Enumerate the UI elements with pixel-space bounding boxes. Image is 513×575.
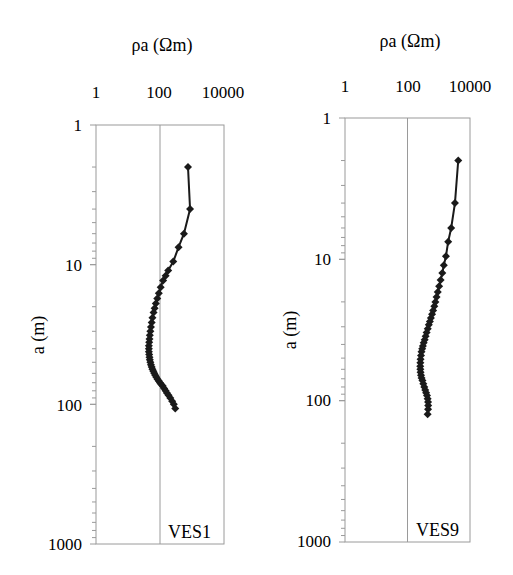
data-point-diamond bbox=[424, 410, 432, 418]
x-tick-label: 10000 bbox=[202, 83, 245, 102]
y-tick-label: 100 bbox=[57, 396, 83, 415]
x-axis-title: ρa (Ωm) bbox=[380, 31, 441, 52]
plot-frame bbox=[339, 118, 470, 542]
x-tick-label: 1 bbox=[92, 83, 101, 102]
data-point-diamond bbox=[175, 243, 183, 251]
y-tick-label: 10 bbox=[65, 256, 82, 275]
data-point-diamond bbox=[157, 283, 165, 291]
chart-svg-ves9: ρa (Ωm) 1 100 10000 1 10 100 1000 a (m) … bbox=[260, 0, 513, 575]
chart-panel-ves9: ρa (Ωm) 1 100 10000 1 10 100 1000 a (m) … bbox=[260, 0, 513, 575]
data-series-ves9 bbox=[416, 157, 462, 419]
x-tick-label: 100 bbox=[395, 77, 421, 96]
y-tick-label: 1000 bbox=[297, 532, 331, 551]
station-label: VES9 bbox=[416, 520, 459, 540]
data-point-diamond bbox=[437, 276, 445, 284]
data-point-diamond bbox=[186, 205, 194, 213]
x-tick-label: 10000 bbox=[449, 77, 492, 96]
y-axis-title: a (m) bbox=[280, 311, 301, 349]
data-point-diamond bbox=[180, 230, 188, 238]
data-point-diamond bbox=[451, 199, 459, 207]
data-point-diamond bbox=[440, 261, 448, 269]
x-axis-title: ρa (Ωm) bbox=[132, 35, 193, 56]
data-point-diamond bbox=[442, 252, 450, 260]
y-tick-label: 1 bbox=[74, 116, 83, 135]
data-point-diamond bbox=[447, 224, 455, 232]
y-tick-label: 100 bbox=[306, 391, 332, 410]
y-tick-label: 10 bbox=[314, 250, 331, 269]
data-point-diamond bbox=[184, 163, 192, 171]
chart-panel-ves1: ρa (Ωm) 1 100 10000 1 10 100 1000 a (m) … bbox=[0, 0, 260, 575]
plot-frame bbox=[90, 125, 224, 544]
chart-svg-ves1: ρa (Ωm) 1 100 10000 1 10 100 1000 a (m) … bbox=[0, 0, 260, 575]
station-label: VES1 bbox=[168, 522, 211, 542]
data-point-diamond bbox=[169, 258, 177, 266]
data-point-diamond bbox=[444, 238, 452, 246]
y-axis-title: a (m) bbox=[28, 316, 49, 354]
data-point-diamond bbox=[454, 157, 462, 165]
x-tick-label: 100 bbox=[146, 83, 172, 102]
data-point-diamond bbox=[435, 282, 443, 290]
data-point-diamond bbox=[438, 269, 446, 277]
y-tick-label: 1000 bbox=[48, 535, 82, 554]
x-tick-label: 1 bbox=[341, 77, 350, 96]
y-tick-label: 1 bbox=[323, 109, 332, 128]
data-series-ves1 bbox=[145, 163, 194, 412]
